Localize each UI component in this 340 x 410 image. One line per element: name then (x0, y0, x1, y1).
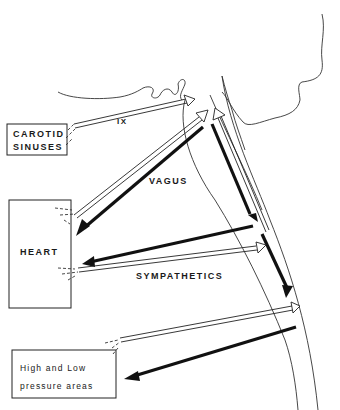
ascending-afferent-arrow (213, 108, 269, 232)
efferent-arrow-pressure (124, 327, 296, 381)
head-base-outline (58, 88, 143, 99)
afferent-arrow-pressure (105, 302, 300, 354)
vagus-nerve-label: VAGUS (149, 176, 188, 186)
efferent-arrow-sympathetic (82, 213, 258, 267)
carotid-label-line2: SINUSES (13, 142, 63, 152)
pressure-label-line1: High and Low (20, 363, 86, 373)
skull-outline (222, 14, 323, 125)
pressure-label-line2: pressure areas (20, 381, 94, 391)
baroreflex-diagram: CAROTID SINUSES HEART High and Low press… (0, 0, 340, 410)
carotid-label-line1: CAROTID (13, 129, 65, 139)
descending-efferent-arrow (212, 124, 293, 298)
sympathetics-nerve-label: SYMPATHETICS (136, 271, 223, 281)
heart-label: HEART (20, 247, 59, 257)
cerebellum-outline (143, 80, 185, 101)
brainstem-outline (222, 76, 245, 150)
afferent-arrow-ix (66, 95, 195, 145)
